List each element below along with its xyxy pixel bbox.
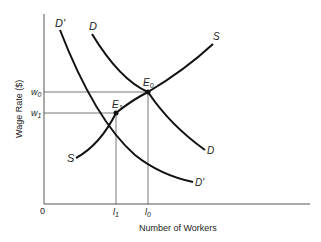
y-axis-title: Wage Rate ($) xyxy=(14,80,24,138)
x-axis-title: Number of Workers xyxy=(139,223,217,233)
equilibrium-e1-point xyxy=(114,111,119,116)
supply-start-label: S xyxy=(67,152,75,164)
worker-tick-l0: l0 xyxy=(145,207,151,218)
worker-tick-l1: l1 xyxy=(113,207,119,218)
wage-tick-w1: w1 xyxy=(31,108,42,119)
equilibrium-e0-label: E0 xyxy=(143,77,154,89)
supply-end-label: S xyxy=(213,31,220,42)
demand-original-start-label: D xyxy=(89,20,97,32)
equilibrium-e0-point xyxy=(146,90,151,95)
labor-market-diagram: D' D S S D D' E0 E1 w0 w1 0 l1 l0 Number… xyxy=(0,0,321,242)
demand-shifted-start-label: D' xyxy=(55,17,66,29)
wage-tick-w0: w0 xyxy=(31,87,42,98)
equilibrium-e1-label: E1 xyxy=(112,99,123,111)
demand-shifted-end-label: D' xyxy=(195,177,205,188)
origin-label: 0 xyxy=(40,206,45,216)
demand-original-end-label: D xyxy=(207,145,214,156)
